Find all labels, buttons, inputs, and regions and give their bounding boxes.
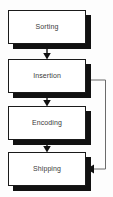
flowchart-canvas: Sorting Insertion Encoding Shipping — [0, 0, 113, 197]
node-label-insertion: Insertion — [9, 72, 85, 80]
node-shipping[interactable]: Shipping — [8, 152, 86, 186]
node-insertion[interactable]: Insertion — [8, 59, 86, 93]
node-label-shipping: Shipping — [9, 165, 85, 173]
node-label-encoding: Encoding — [9, 119, 85, 127]
node-encoding[interactable]: Encoding — [8, 106, 86, 140]
node-sorting[interactable]: Sorting — [8, 10, 86, 44]
node-label-sorting: Sorting — [9, 23, 85, 31]
